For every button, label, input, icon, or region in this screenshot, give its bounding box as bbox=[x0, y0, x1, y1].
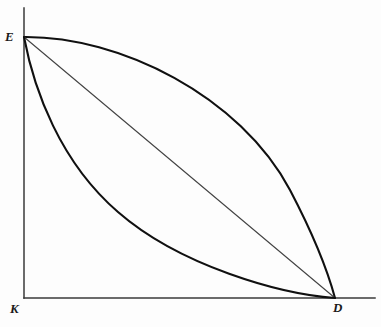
point-label-k: K bbox=[10, 302, 19, 315]
point-label-d: D bbox=[333, 301, 342, 314]
straight-chord bbox=[24, 37, 335, 298]
lens-diagram-svg bbox=[0, 0, 381, 327]
point-label-e: E bbox=[5, 30, 14, 43]
figure-container: E K D bbox=[0, 0, 381, 327]
